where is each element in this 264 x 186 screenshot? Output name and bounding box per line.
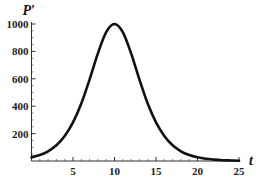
y-tick-label: 200 bbox=[12, 128, 29, 140]
series-line bbox=[32, 24, 240, 161]
x-tick-label: 5 bbox=[70, 165, 76, 177]
chart: 510152025 2004006008001000 t P′ bbox=[0, 0, 264, 186]
y-tick-label: 800 bbox=[12, 45, 29, 57]
y-tick-label: 600 bbox=[12, 73, 29, 85]
series-layer bbox=[32, 24, 240, 161]
x-axis-label: t bbox=[249, 153, 254, 168]
x-tick-label: 25 bbox=[234, 165, 246, 177]
x-tick-label: 20 bbox=[192, 165, 204, 177]
y-axis-label: P′ bbox=[23, 3, 36, 18]
x-tick-label: 10 bbox=[109, 165, 121, 177]
y-tick-label: 400 bbox=[12, 100, 29, 112]
y-tick-label: 1000 bbox=[7, 18, 30, 30]
x-tick-label: 15 bbox=[151, 165, 163, 177]
